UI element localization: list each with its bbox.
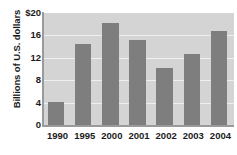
bar <box>75 44 92 125</box>
y-axis-tick-label: 0 <box>17 120 41 130</box>
bar-slot <box>153 13 180 125</box>
bar <box>184 54 201 125</box>
y-axis-tick-label: 4 <box>17 98 41 108</box>
x-axis-tick-labels: 1990199520002001200220032004 <box>44 130 234 144</box>
plot-area <box>44 13 234 125</box>
x-axis-line <box>42 125 234 127</box>
y-axis-tick-label: 8 <box>17 75 41 85</box>
y-axis-line <box>42 12 44 126</box>
bar <box>102 23 119 125</box>
y-axis-tick-labels: 0481216$20 <box>17 0 41 128</box>
bar-chart-figure: Billions of U.S. dollars 0481216$20 1990… <box>0 0 237 155</box>
x-axis-tick-label: 2002 <box>153 130 180 142</box>
y-axis-tick-label: $20 <box>17 8 41 18</box>
bar-slot <box>207 13 234 125</box>
x-axis-tick-label: 2000 <box>98 130 125 142</box>
bar <box>129 40 146 125</box>
x-axis-tick-label: 1995 <box>71 130 98 142</box>
y-axis-tick-label: 16 <box>17 30 41 40</box>
x-axis-tick-label: 2003 <box>180 130 207 142</box>
bar-slot <box>125 13 152 125</box>
bar <box>156 68 173 125</box>
y-axis-tick-label: 12 <box>17 53 41 63</box>
bars-group <box>44 13 234 125</box>
bar-slot <box>71 13 98 125</box>
bar-slot <box>44 13 71 125</box>
x-axis-tick-label: 1990 <box>44 130 71 142</box>
bar <box>211 31 228 125</box>
x-axis-tick-label: 2004 <box>207 130 234 142</box>
bar-slot <box>180 13 207 125</box>
bar-slot <box>98 13 125 125</box>
bar <box>48 102 65 125</box>
x-axis-tick-label: 2001 <box>125 130 152 142</box>
